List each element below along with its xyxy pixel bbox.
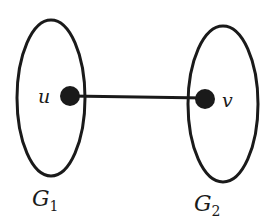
subgraph-g1-subscript: 1 — [50, 198, 59, 214]
subgraph-g1-label: G1 — [32, 186, 59, 214]
node-u — [60, 86, 80, 106]
subgraph-g2-subscript: 2 — [212, 203, 221, 219]
subgraph-g2-letter: G — [194, 191, 212, 216]
node-v — [195, 89, 215, 109]
node-v-label: v — [222, 89, 233, 111]
node-u-label: u — [38, 85, 50, 107]
graph-diagram: u v G1 G2 — [0, 0, 274, 221]
subgraph-g2-label: G2 — [194, 191, 221, 219]
edge-u-v — [70, 96, 205, 98]
subgraph-g1-letter: G — [32, 186, 50, 211]
